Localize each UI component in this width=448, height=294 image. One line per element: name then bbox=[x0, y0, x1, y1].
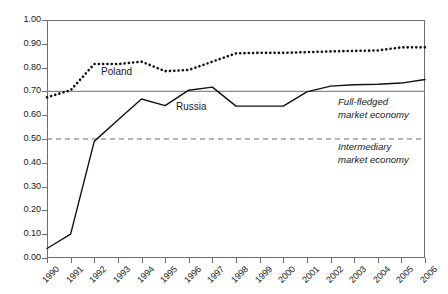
y-axis-labels: 1.000.900.800.700.600.500.400.300.200.10… bbox=[0, 20, 41, 258]
x-axis-tick-mark bbox=[71, 258, 72, 263]
series-label-russia: Russia bbox=[176, 101, 207, 112]
x-axis-tick-mark bbox=[283, 258, 284, 263]
annotation-intermediary-market-economy: Intermediary market economy bbox=[338, 141, 409, 166]
series-label-poland: Poland bbox=[101, 66, 132, 77]
x-axis-tick-mark bbox=[260, 258, 261, 263]
market-economy-index-chart: 1.000.900.800.700.600.500.400.300.200.10… bbox=[0, 0, 448, 294]
x-axis-tick-mark bbox=[94, 258, 95, 263]
y-axis-tick-label: 0.10 bbox=[0, 230, 41, 239]
y-axis-tick-label: 0.90 bbox=[0, 39, 41, 48]
annotation-full-fledged-line2: market economy bbox=[338, 109, 409, 122]
x-axis-tick-mark bbox=[354, 258, 355, 263]
x-axis-tick-mark bbox=[307, 258, 308, 263]
x-axis-tick-mark bbox=[165, 258, 166, 263]
plot-area bbox=[47, 20, 425, 258]
y-axis-tick-label: 0.60 bbox=[0, 111, 41, 120]
annotation-full-fledged-line1: Full-fledged bbox=[338, 96, 409, 109]
y-axis-tick-label: 0.40 bbox=[0, 158, 41, 167]
x-axis-tick-mark bbox=[47, 258, 48, 263]
x-axis-tick-mark bbox=[142, 258, 143, 263]
x-axis-tick-mark bbox=[236, 258, 237, 263]
cropped-title-artifact bbox=[60, 0, 390, 9]
y-axis-tick-label: 0.70 bbox=[0, 87, 41, 96]
annotation-intermediary-line1: Intermediary bbox=[338, 141, 409, 154]
x-axis-tick-mark bbox=[425, 258, 426, 263]
x-axis-tick-mark bbox=[331, 258, 332, 263]
y-axis-tick-label: 1.00 bbox=[0, 15, 41, 24]
y-axis-tick-label: 0.00 bbox=[0, 253, 41, 262]
x-axis-tick-mark bbox=[212, 258, 213, 263]
annotation-intermediary-line2: market economy bbox=[338, 154, 409, 167]
y-axis-tick-label: 0.50 bbox=[0, 134, 41, 143]
y-axis-tick-label: 0.80 bbox=[0, 63, 41, 72]
x-axis-tick-mark bbox=[401, 258, 402, 263]
x-axis-tick-mark bbox=[189, 258, 190, 263]
y-axis-tick-label: 0.20 bbox=[0, 206, 41, 215]
y-axis-tick-label: 0.30 bbox=[0, 182, 41, 191]
x-axis-tick-mark bbox=[378, 258, 379, 263]
x-axis-ticks bbox=[47, 258, 425, 264]
annotation-full-fledged-market-economy: Full-fledged market economy bbox=[338, 96, 409, 121]
x-axis-tick-mark bbox=[118, 258, 119, 263]
